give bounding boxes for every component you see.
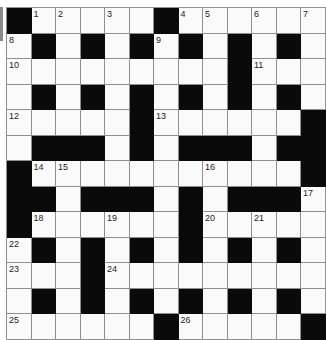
answer-cell[interactable] (252, 136, 277, 162)
answer-cell[interactable] (7, 289, 32, 315)
answer-cell[interactable] (203, 238, 228, 264)
answer-cell[interactable]: 7 (301, 8, 326, 34)
answer-cell[interactable] (154, 238, 179, 264)
answer-cell[interactable] (301, 85, 326, 111)
answer-cell[interactable] (228, 314, 253, 340)
answer-cell[interactable]: 24 (105, 263, 130, 289)
answer-cell[interactable] (56, 238, 81, 264)
answer-cell[interactable]: 4 (179, 8, 204, 34)
answer-cell[interactable] (203, 110, 228, 136)
answer-cell[interactable] (228, 212, 253, 238)
answer-cell[interactable] (277, 212, 302, 238)
answer-cell[interactable]: 20 (203, 212, 228, 238)
answer-cell[interactable] (154, 212, 179, 238)
answer-cell[interactable]: 14 (32, 161, 57, 187)
answer-cell[interactable]: 26 (179, 314, 204, 340)
answer-cell[interactable] (154, 289, 179, 315)
answer-cell[interactable] (252, 34, 277, 60)
answer-cell[interactable] (56, 110, 81, 136)
answer-cell[interactable]: 18 (32, 212, 57, 238)
answer-cell[interactable] (56, 289, 81, 315)
answer-cell[interactable] (301, 59, 326, 85)
answer-cell[interactable] (130, 314, 155, 340)
answer-cell[interactable] (203, 314, 228, 340)
answer-cell[interactable]: 13 (154, 110, 179, 136)
answer-cell[interactable] (105, 110, 130, 136)
answer-cell[interactable]: 5 (203, 8, 228, 34)
answer-cell[interactable] (277, 161, 302, 187)
answer-cell[interactable] (154, 187, 179, 213)
answer-cell[interactable] (32, 263, 57, 289)
answer-cell[interactable] (130, 212, 155, 238)
answer-cell[interactable] (105, 289, 130, 315)
answer-cell[interactable] (56, 212, 81, 238)
answer-cell[interactable] (7, 136, 32, 162)
answer-cell[interactable]: 11 (252, 59, 277, 85)
answer-cell[interactable] (105, 314, 130, 340)
answer-cell[interactable]: 17 (301, 187, 326, 213)
answer-cell[interactable]: 22 (7, 238, 32, 264)
answer-cell[interactable] (154, 85, 179, 111)
answer-cell[interactable] (105, 238, 130, 264)
answer-cell[interactable] (32, 314, 57, 340)
answer-cell[interactable] (7, 85, 32, 111)
answer-cell[interactable] (203, 85, 228, 111)
answer-cell[interactable] (81, 8, 106, 34)
answer-cell[interactable] (179, 59, 204, 85)
answer-cell[interactable] (81, 110, 106, 136)
answer-cell[interactable] (228, 8, 253, 34)
answer-cell[interactable]: 2 (56, 8, 81, 34)
answer-cell[interactable] (105, 85, 130, 111)
answer-cell[interactable] (252, 263, 277, 289)
answer-cell[interactable] (252, 161, 277, 187)
answer-cell[interactable] (203, 187, 228, 213)
answer-cell[interactable] (277, 263, 302, 289)
answer-cell[interactable] (56, 314, 81, 340)
answer-cell[interactable] (56, 59, 81, 85)
answer-cell[interactable] (252, 314, 277, 340)
answer-cell[interactable]: 16 (203, 161, 228, 187)
answer-cell[interactable] (130, 263, 155, 289)
answer-cell[interactable] (154, 59, 179, 85)
answer-cell[interactable]: 12 (7, 110, 32, 136)
answer-cell[interactable] (56, 85, 81, 111)
answer-cell[interactable]: 15 (56, 161, 81, 187)
answer-cell[interactable] (301, 212, 326, 238)
answer-cell[interactable]: 21 (252, 212, 277, 238)
answer-cell[interactable] (81, 212, 106, 238)
answer-cell[interactable] (32, 110, 57, 136)
answer-cell[interactable] (154, 136, 179, 162)
answer-cell[interactable]: 10 (7, 59, 32, 85)
answer-cell[interactable] (179, 161, 204, 187)
answer-cell[interactable] (252, 110, 277, 136)
answer-cell[interactable] (277, 110, 302, 136)
answer-cell[interactable] (105, 59, 130, 85)
answer-cell[interactable]: 8 (7, 34, 32, 60)
answer-cell[interactable] (301, 34, 326, 60)
answer-cell[interactable] (277, 8, 302, 34)
answer-cell[interactable]: 6 (252, 8, 277, 34)
answer-cell[interactable] (301, 263, 326, 289)
answer-cell[interactable]: 9 (154, 34, 179, 60)
answer-cell[interactable] (154, 263, 179, 289)
answer-cell[interactable] (301, 238, 326, 264)
answer-cell[interactable]: 19 (105, 212, 130, 238)
answer-cell[interactable] (179, 110, 204, 136)
answer-cell[interactable] (203, 289, 228, 315)
answer-cell[interactable] (81, 314, 106, 340)
answer-cell[interactable] (32, 59, 57, 85)
answer-cell[interactable] (179, 263, 204, 289)
answer-cell[interactable]: 1 (32, 8, 57, 34)
answer-cell[interactable] (81, 59, 106, 85)
answer-cell[interactable] (228, 161, 253, 187)
answer-cell[interactable] (81, 161, 106, 187)
answer-cell[interactable] (252, 289, 277, 315)
answer-cell[interactable] (154, 161, 179, 187)
answer-cell[interactable] (56, 263, 81, 289)
answer-cell[interactable] (228, 110, 253, 136)
answer-cell[interactable] (56, 187, 81, 213)
answer-cell[interactable] (130, 59, 155, 85)
answer-cell[interactable] (301, 289, 326, 315)
answer-cell[interactable] (228, 263, 253, 289)
answer-cell[interactable] (130, 161, 155, 187)
